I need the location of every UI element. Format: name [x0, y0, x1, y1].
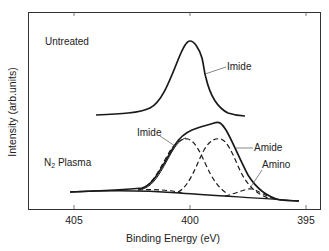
- plasma-imide-leader: [160, 136, 175, 146]
- untreated-curve: [96, 41, 245, 116]
- x-axis-label: Binding Energy (eV): [126, 232, 220, 244]
- untreated-imide-leader: [205, 67, 226, 74]
- n2-plasma-suffix: Plasma: [55, 157, 92, 168]
- xps-chart: Untreated Imide N2 Plasma Imide Amide Am…: [0, 0, 329, 251]
- label-plasma-amino: Amino: [262, 159, 291, 170]
- label-untreated-imide: Imide: [227, 61, 252, 72]
- x-tick-400: 400: [181, 214, 199, 226]
- x-tick-395: 395: [297, 214, 315, 226]
- label-plasma-amide: Amide: [254, 142, 283, 153]
- y-axis-label: Intensity (arb.units): [6, 67, 18, 156]
- plasma-imide-component: [138, 139, 228, 194]
- x-tick-405: 405: [65, 214, 83, 226]
- label-plasma-imide: Imide: [137, 127, 162, 138]
- label-untreated: Untreated: [45, 36, 89, 47]
- n2-plasma-prefix: N: [44, 157, 51, 168]
- label-n2-plasma: N2 Plasma: [44, 157, 92, 169]
